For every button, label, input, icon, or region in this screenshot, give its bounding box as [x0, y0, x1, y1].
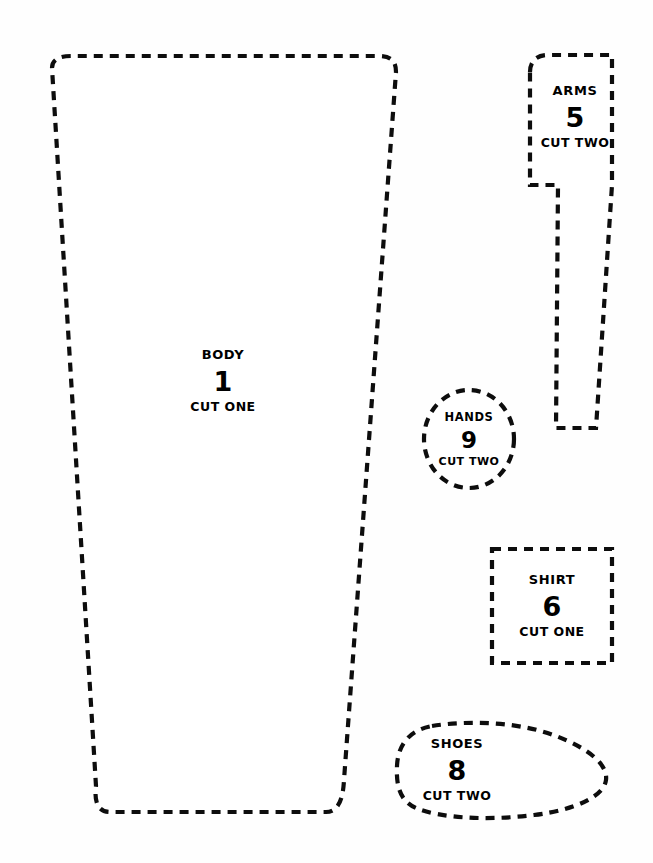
piece-outline-shoes — [397, 723, 606, 818]
piece-outline-shirt — [492, 549, 612, 663]
piece-outline-body — [52, 56, 396, 812]
pattern-outlines — [0, 0, 653, 863]
piece-outline-arms — [530, 55, 612, 428]
pattern-sheet: BODY 1 CUT ONE ARMS 5 CUT TWO HANDS 9 CU… — [0, 0, 653, 863]
piece-outline-hands — [424, 390, 514, 488]
